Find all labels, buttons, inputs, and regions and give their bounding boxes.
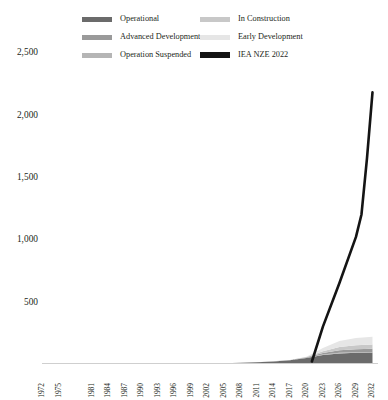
legend-label: In Construction (238, 14, 290, 24)
x-axis: 1972197519811984198719901993199619992002… (42, 366, 378, 400)
x-axis-tick-label: 2017 (286, 383, 294, 398)
y-axis-tick-label: 1,000 (17, 234, 38, 244)
y-axis-tick-label: 2,500 (17, 47, 38, 57)
x-axis-tick-label: 2029 (352, 383, 360, 398)
x-axis-tick-label: 2008 (236, 383, 244, 398)
x-axis-tick-label: 1981 (88, 383, 96, 398)
x-axis-tick-label: 2014 (269, 383, 277, 398)
y-axis: 2,5002,0001,5001,000500 (0, 40, 38, 364)
x-axis-tick-label: 1975 (55, 383, 63, 398)
x-axis-tick-label: 1972 (38, 383, 46, 398)
x-axis-tick-label: 1996 (170, 383, 178, 398)
x-axis-tick-label: 2032 (368, 383, 376, 398)
x-axis-tick-label: 1990 (137, 383, 145, 398)
legend-swatch (200, 35, 230, 40)
reference-line-iea-nze-2022 (42, 40, 378, 364)
legend-swatch (82, 17, 112, 22)
x-axis-tick-label: 2002 (203, 383, 211, 398)
x-axis-tick-label: 1984 (104, 383, 112, 398)
x-axis-tick-label: 2020 (302, 383, 310, 398)
y-axis-tick-label: 500 (24, 297, 38, 307)
x-axis-tick-label: 1999 (187, 383, 195, 398)
legend-item-in-construction: In Construction (200, 14, 370, 24)
x-axis-tick-label: 2005 (220, 383, 228, 398)
plot-area (42, 40, 378, 364)
x-axis-tick-label: 1987 (121, 383, 129, 398)
x-axis-tick-label: 2026 (335, 383, 343, 398)
y-axis-tick-label: 1,500 (17, 172, 38, 182)
legend-row: Operational In Construction (82, 10, 382, 28)
iea-nze-2022-line (312, 92, 373, 361)
legend-label: Operational (120, 14, 159, 24)
x-axis-tick-label: 2011 (253, 383, 261, 398)
x-axis-tick-label: 2023 (319, 383, 327, 398)
x-axis-tick-label: 1993 (154, 383, 162, 398)
chart-container: Operational In Construction Advanced Dev… (0, 0, 388, 400)
legend-swatch (82, 35, 112, 40)
x-axis-baseline (42, 363, 378, 364)
legend-swatch (200, 17, 230, 22)
y-axis-tick-label: 2,000 (17, 110, 38, 120)
legend-item-operational: Operational (82, 14, 200, 24)
